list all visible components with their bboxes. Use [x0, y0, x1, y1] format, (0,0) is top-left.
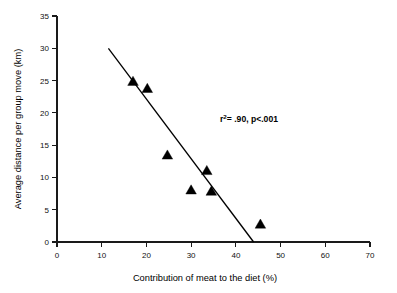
r-squared-value-text: = .90, p<.001	[227, 114, 278, 124]
x-tick-label-60: 60	[321, 251, 330, 260]
y-axis-ticks	[52, 16, 57, 242]
x-axis-tick-labels: 0 10 20 30 40 50 60 70	[55, 251, 375, 260]
x-tick-label-50: 50	[276, 251, 285, 260]
x-tick-label-10: 10	[97, 251, 106, 260]
data-point-markers	[128, 76, 266, 228]
x-axis-ticks	[57, 242, 370, 247]
plot-canvas: 0 5 10 15 20 25 30 35 0 10 20 30 40 50	[0, 0, 397, 293]
data-point-marker	[255, 219, 266, 228]
scatter-plot-figure: 0 5 10 15 20 25 30 35 0 10 20 30 40 50	[0, 0, 397, 293]
data-point-marker	[186, 185, 197, 194]
data-point-marker	[202, 165, 213, 174]
y-tick-label-0: 0	[45, 238, 50, 247]
y-tick-label-20: 20	[40, 109, 49, 118]
x-tick-label-40: 40	[231, 251, 240, 260]
y-tick-label-10: 10	[40, 173, 49, 182]
x-tick-label-0: 0	[55, 251, 60, 260]
y-tick-label-35: 35	[40, 12, 49, 21]
regression-trend-line	[108, 48, 253, 242]
x-tick-label-30: 30	[187, 251, 196, 260]
y-tick-label-25: 25	[40, 77, 49, 86]
data-point-marker	[142, 83, 153, 92]
data-point-marker	[162, 150, 173, 159]
y-tick-label-30: 30	[40, 44, 49, 53]
x-tick-label-70: 70	[366, 251, 375, 260]
x-axis-title: Contribution of meat to the diet (%)	[133, 273, 277, 283]
x-tick-label-20: 20	[142, 251, 151, 260]
r-squared-annotation: r2= .90, p<.001	[220, 113, 278, 125]
y-tick-label-5: 5	[45, 206, 50, 215]
data-point-marker	[128, 76, 139, 85]
y-tick-label-15: 15	[40, 141, 49, 150]
y-axis-title: Average distance per group move (km)	[13, 49, 23, 210]
y-axis-tick-labels: 0 5 10 15 20 25 30 35	[40, 12, 49, 247]
